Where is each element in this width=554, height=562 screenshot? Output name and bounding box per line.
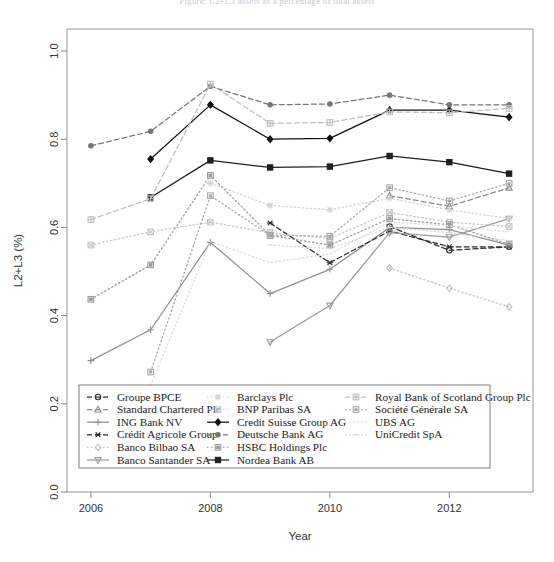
series-layer — [88, 81, 513, 385]
data-point-marker — [327, 164, 332, 169]
x-tick-label: 2006 — [79, 502, 103, 514]
legend-label: UBS AG — [375, 416, 415, 428]
legend-label: Deutsche Bank AG — [237, 428, 323, 440]
data-point-marker — [267, 165, 272, 170]
legend-label: Barclays Plc — [237, 391, 293, 403]
chart-legend[interactable]: Groupe BPCEStandard Chartered PlcING Ban… — [79, 385, 531, 468]
legend-label: UniCredit SpA — [375, 428, 442, 440]
legend-label: Crédit Agricole Group — [117, 428, 218, 440]
data-point-marker — [148, 129, 152, 133]
series-line — [151, 105, 509, 159]
data-point-marker — [446, 206, 453, 213]
data-point-marker — [88, 242, 94, 248]
data-point-marker — [149, 264, 152, 267]
data-point-marker — [215, 457, 220, 462]
series-line — [151, 156, 509, 197]
legend-label: ING Bank NV — [117, 416, 182, 428]
series-banco-bilbao-sa — [387, 265, 512, 310]
x-tick-label: 2012 — [437, 502, 461, 514]
data-point-marker — [355, 408, 357, 410]
data-point-marker — [267, 221, 274, 226]
series-barclays-plc — [207, 180, 512, 222]
series-line — [91, 227, 509, 360]
data-point-marker — [88, 357, 95, 364]
data-point-marker — [386, 195, 393, 202]
legend-label: Banco Santander SA — [117, 454, 210, 466]
data-point-marker — [149, 371, 151, 373]
data-point-marker — [508, 243, 511, 246]
x-tick-label: 2008 — [198, 502, 222, 514]
x-tick-label: 2010 — [318, 502, 342, 514]
y-axis-title: L2+L3 (%) — [12, 234, 24, 288]
data-point-marker — [208, 158, 213, 163]
y-tick-label: 0.2 — [48, 396, 60, 411]
data-point-marker — [506, 224, 512, 230]
data-point-marker — [447, 160, 452, 165]
data-point-marker — [207, 180, 214, 187]
y-tick-label: 0.6 — [48, 220, 60, 235]
data-point-marker — [267, 136, 273, 143]
data-point-marker — [209, 174, 212, 177]
data-point-marker — [508, 182, 510, 184]
data-point-marker — [388, 187, 390, 189]
data-point-marker — [267, 202, 274, 209]
data-point-marker — [217, 446, 220, 449]
data-point-marker — [387, 93, 391, 97]
legend-label: Nordea Bank AB — [237, 454, 314, 466]
data-point-marker — [216, 433, 220, 437]
data-point-marker — [329, 235, 331, 237]
series-ing-bank-nv — [88, 224, 513, 364]
legend-label: Credit Suisse Group AG — [237, 416, 346, 428]
legend-label: Banco Bilbao SA — [117, 441, 195, 453]
data-point-marker — [327, 120, 333, 126]
data-point-marker — [388, 217, 391, 220]
series-line — [390, 268, 509, 307]
y-tick-label: 0.8 — [48, 132, 60, 147]
series-credit-suisse-group-ag — [148, 102, 512, 163]
x-axis: 2006200820102012 — [79, 492, 462, 514]
data-point-marker — [387, 153, 392, 158]
y-tick-label: 0.4 — [48, 308, 60, 323]
figure-title: Figure: L2+L3 assets as a percentage of … — [0, 0, 554, 6]
figure-container: Figure: L2+L3 assets as a percentage of … — [0, 0, 554, 562]
data-point-marker — [89, 144, 93, 148]
data-point-marker — [327, 206, 334, 213]
data-point-marker — [446, 244, 453, 249]
legend-label: Groupe BPCE — [117, 391, 181, 403]
data-point-marker — [506, 171, 511, 176]
legend-label: BNP Paribas SA — [237, 403, 311, 415]
y-axis: 0.00.20.40.60.81.0 — [48, 43, 67, 499]
legend-label: Standard Chartered Plc — [117, 403, 221, 415]
data-point-marker — [215, 394, 222, 401]
data-point-marker — [148, 229, 154, 235]
legend-label: Société Générale SA — [375, 403, 468, 415]
data-point-marker — [506, 114, 512, 121]
legend-label: HSBC Holdings Plc — [237, 441, 327, 453]
data-point-marker — [88, 217, 94, 223]
x-axis-title: Year — [288, 530, 311, 542]
data-point-marker — [209, 195, 211, 197]
data-point-marker — [269, 234, 271, 236]
data-point-marker — [448, 200, 450, 202]
line-chart: 0.00.20.40.60.81.0 2006200820102012 Year… — [0, 0, 554, 562]
series-nordea-bank-ab — [148, 153, 512, 200]
data-point-marker — [328, 102, 332, 106]
series-line — [210, 183, 509, 218]
y-tick-label: 1.0 — [48, 43, 60, 58]
data-point-marker — [90, 298, 93, 301]
data-point-marker — [329, 244, 332, 247]
data-point-marker — [268, 103, 272, 107]
legend-label: Royal Bank of Scotland Group Plc — [375, 391, 531, 403]
data-point-marker — [506, 215, 513, 222]
data-point-marker — [447, 103, 451, 107]
data-point-marker — [327, 260, 334, 265]
y-tick-label: 0.0 — [48, 484, 60, 499]
data-point-marker — [327, 135, 333, 142]
